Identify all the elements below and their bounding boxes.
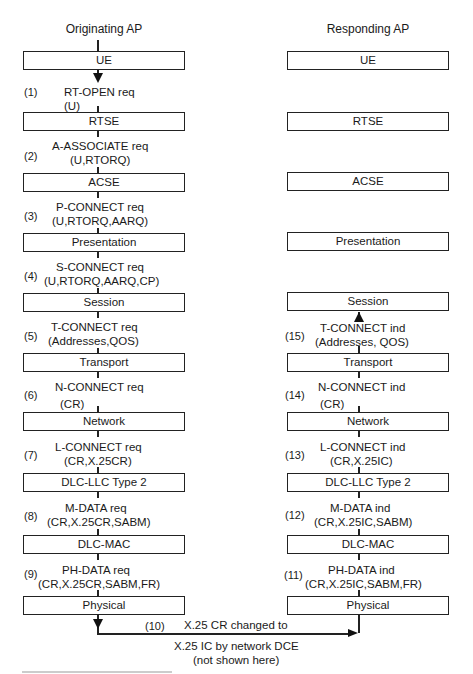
right-layer-presentation: Presentation [287,232,449,251]
arrow-down-icon [93,619,103,629]
step-parameters: (CR) [320,398,344,411]
figure-caption-clipped [22,668,182,674]
network-transfer-line [97,633,349,635]
left-layer-transport: Transport [23,353,185,372]
step-primitive: RT-OPEN req [64,86,135,99]
right-layer-transport: Transport [287,353,449,372]
step-parameters: (CR,X.25IC) [330,455,393,468]
step-parameters: (CR) [60,398,84,411]
network-step-text-2: X.25 IC by network DCE [174,640,299,653]
connector-line [97,40,99,51]
step-parameters: (U,RTORQ,AARQ,CP) [44,275,159,288]
step-parameters: (U) [64,100,80,113]
connector-line [97,192,99,198]
arrow-up-icon [354,312,364,322]
step-number: (5) [24,330,37,342]
left-layer-acse: ACSE [23,173,185,192]
step-parameters: (U,RTORQ) [70,154,130,167]
step-parameters: (CR,X.25CR) [64,455,132,468]
arrow-right-icon [348,629,358,637]
originating-ap-title: Originating AP [19,22,189,36]
left-layer-ue: UE [23,51,185,70]
connector-line [97,252,99,258]
step-primitive: T-CONNECT ind [320,322,405,335]
right-layer-session: Session [287,292,449,311]
connector-line [97,312,99,318]
connector-line [358,431,360,437]
step-parameters: (CR,X.25IC,SABM,FR) [305,578,422,591]
right-layer-rtse: RTSE [287,112,449,131]
left-layer-session: Session [23,293,185,312]
step-primitive: M-DATA req [65,502,127,515]
step-primitive: N-CONNECT ind [318,381,405,394]
right-layer-physical: Physical [287,596,449,615]
step-parameters: (CR,X.25IC,SABM) [314,516,412,529]
left-layer-network: Network [23,412,185,431]
step-number: (15) [285,330,305,342]
right-layer-dlc-mac: DLC-MAC [287,535,449,554]
step-parameters: (U,RTORQ,AARQ) [52,215,148,228]
step-primitive: L-CONNECT ind [320,441,405,454]
left-layer-presentation: Presentation [23,233,185,252]
step-number: (14) [285,389,305,401]
connector-line [97,492,99,498]
step-number: (2) [24,150,37,162]
step-primitive: N-CONNECT req [55,381,144,394]
step-parameters: (CR,X.25CR,SABM) [47,516,151,529]
step-primitive: S-CONNECT req [56,261,144,274]
connector-line [97,431,99,437]
responding-ap-title: Responding AP [283,22,453,36]
step-primitive: L-CONNECT req [55,441,142,454]
step-primitive: A-ASSOCIATE req [52,140,148,153]
step-number: (9) [24,568,37,580]
right-layer-dlc-llc: DLC-LLC Type 2 [287,473,449,492]
step-number: (3) [24,210,37,222]
step-parameters: (CR,X.25CR,SABM,FR) [38,578,160,591]
network-step-text-3: (not shown here) [193,654,279,667]
step-parameters: (Addresses,QOS) [48,335,139,348]
step-primitive: PH-DATA req [62,564,130,577]
connector-line [97,131,99,137]
right-layer-ue: UE [287,51,449,70]
arrow-down-icon [93,73,103,83]
step-number: (13) [285,449,305,461]
step-primitive: T-CONNECT req [51,321,138,334]
network-step-text-1: X.25 CR changed to [184,619,288,632]
left-layer-dlc-mac: DLC-MAC [23,535,185,554]
step-number: (4) [24,270,37,282]
step-number: (8) [24,510,37,522]
step-primitive: PH-DATA ind [328,564,395,577]
left-layer-dlc-llc: DLC-LLC Type 2 [23,473,185,492]
step-number: (6) [24,389,37,401]
step-number: (12) [285,509,305,521]
step-number: (11) [284,569,303,581]
step-number: (10) [145,620,165,632]
left-layer-rtse: RTSE [23,112,185,131]
connector-line [358,372,360,378]
step-parameters: (Addresses, QOS) [315,336,409,349]
left-layer-physical: Physical [23,596,185,615]
step-primitive: M-DATA ind [330,502,390,515]
connector-line [97,372,99,378]
connector-line [358,554,360,560]
step-number: (1) [24,86,37,98]
right-layer-network: Network [287,412,449,431]
right-layer-acse: ACSE [287,172,449,191]
step-primitive: P-CONNECT req [56,201,144,214]
connector-line [97,554,99,560]
step-number: (7) [24,449,37,461]
connector-line [358,615,360,633]
connector-line [358,492,360,498]
